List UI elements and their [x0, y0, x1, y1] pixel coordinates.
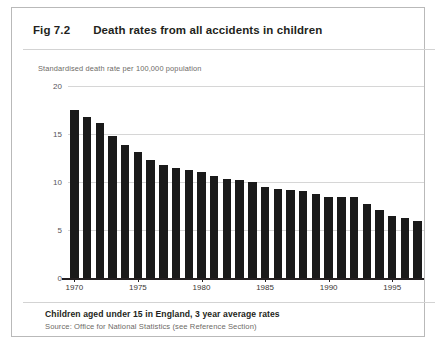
- y-tick-label: 15: [40, 130, 62, 139]
- bar: [388, 216, 396, 278]
- y-axis-ticks: 05101520: [38, 86, 62, 278]
- y-tick-label: 5: [40, 226, 62, 235]
- figure-title-row: Fig 7.2 Death rates from all accidents i…: [33, 24, 322, 36]
- bar: [350, 197, 358, 278]
- figure-number: Fig 7.2: [33, 24, 70, 36]
- bar: [274, 189, 282, 278]
- bar: [159, 165, 167, 278]
- bar: [413, 221, 421, 278]
- bar: [299, 191, 307, 278]
- figure-panel: Fig 7.2 Death rates from all accidents i…: [11, 7, 425, 337]
- bar: [363, 204, 371, 278]
- bar: [286, 190, 294, 278]
- bar: [223, 179, 231, 278]
- bar: [210, 176, 218, 278]
- bar: [134, 152, 142, 278]
- figure-footnote: Children aged under 15 in England, 3 yea…: [45, 309, 280, 319]
- x-tick-label: 1980: [193, 283, 211, 292]
- x-tick-mark: [392, 279, 393, 282]
- x-tick-mark: [74, 279, 75, 282]
- x-tick-mark: [329, 279, 330, 282]
- bar: [337, 197, 345, 278]
- bar: [121, 145, 129, 278]
- bar: [235, 180, 243, 278]
- bar: [70, 110, 78, 278]
- x-axis-ticks: 197019751980198519901995: [68, 279, 424, 293]
- bar-series: [68, 86, 424, 278]
- bar: [146, 160, 154, 278]
- y-tick-label: 10: [40, 178, 62, 187]
- bar: [375, 210, 383, 278]
- x-tick-label: 1995: [383, 283, 401, 292]
- figure-source: Source: Office for National Statistics (…: [45, 322, 257, 331]
- bar: [312, 194, 320, 278]
- bar: [401, 218, 409, 278]
- x-tick-mark: [265, 279, 266, 282]
- bar: [248, 182, 256, 278]
- bar: [261, 187, 269, 278]
- x-tick-mark: [138, 279, 139, 282]
- bar: [83, 117, 91, 278]
- x-tick-label: 1975: [129, 283, 147, 292]
- bar: [96, 123, 104, 278]
- y-tick-label: 20: [40, 82, 62, 91]
- y-axis-label: Standardised death rate per 100,000 popu…: [38, 64, 201, 73]
- x-tick-mark: [202, 279, 203, 282]
- footer-divider: [23, 302, 435, 303]
- title-divider: [23, 49, 435, 50]
- plot-area: [68, 86, 424, 278]
- x-tick-label: 1990: [320, 283, 338, 292]
- bar: [324, 197, 332, 278]
- x-tick-label: 1985: [256, 283, 274, 292]
- bar: [108, 136, 116, 278]
- x-tick-label: 1970: [65, 283, 83, 292]
- bar: [172, 168, 180, 278]
- y-tick-label: 0: [40, 274, 62, 283]
- page-title: Death rates from all accidents in childr…: [93, 24, 322, 36]
- bar: [185, 170, 193, 278]
- bar: [197, 172, 205, 278]
